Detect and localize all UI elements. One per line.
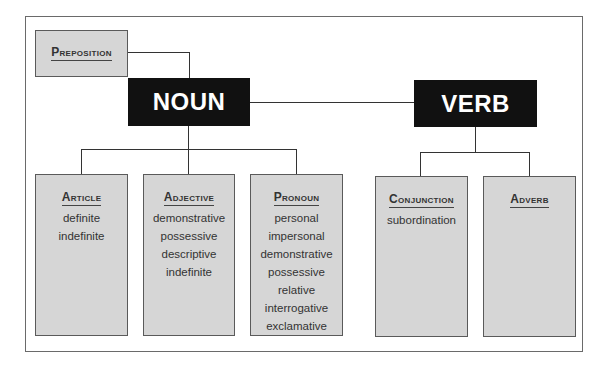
preposition-box: Preposition <box>35 30 128 77</box>
list-item: exclamative <box>251 317 342 335</box>
list-item: descriptive <box>144 245 234 263</box>
adverb-box: Adverb <box>483 176 576 337</box>
connector-noun-verb <box>250 102 414 103</box>
conjunction-box: Conjunction subordination <box>375 176 468 337</box>
list-item: subordination <box>376 211 467 229</box>
pronoun-box: Pronoun personal impersonal demonstrativ… <box>250 174 343 336</box>
list-item: interrogative <box>251 299 342 317</box>
connector-noun-down <box>188 126 189 174</box>
list-item: demonstrative <box>144 209 234 227</box>
connector-pronoun <box>296 149 297 174</box>
connector-verb-down <box>475 127 476 152</box>
connector-preposition-h <box>128 52 190 53</box>
list-item: possessive <box>251 263 342 281</box>
connector-conjunction <box>420 152 421 176</box>
connector-preposition-v <box>189 52 190 78</box>
pronoun-items: personal impersonal demonstrative posses… <box>251 209 342 335</box>
article-items: definite indefinite <box>36 209 127 245</box>
adjective-title: Adjective <box>164 191 215 206</box>
connector-noun-branch <box>81 149 297 150</box>
conjunction-items: subordination <box>376 211 467 229</box>
adjective-box: Adjective demonstrative possessive descr… <box>143 174 235 336</box>
list-item: definite <box>36 209 127 227</box>
connector-article <box>81 149 82 174</box>
verb-node: VERB <box>414 80 537 127</box>
preposition-label: Preposition <box>51 46 112 61</box>
verb-label: VERB <box>441 90 510 118</box>
list-item: indefinite <box>144 263 234 281</box>
adverb-title: Adverb <box>510 193 548 208</box>
list-item: demonstrative <box>251 245 342 263</box>
adjective-items: demonstrative possessive descriptive ind… <box>144 209 234 281</box>
list-item: indefinite <box>36 227 127 245</box>
article-box: Article definite indefinite <box>35 174 128 336</box>
connector-verb-branch <box>420 152 530 153</box>
noun-label: NOUN <box>153 88 226 116</box>
connector-adverb <box>529 152 530 176</box>
list-item: relative <box>251 281 342 299</box>
conjunction-title: Conjunction <box>389 193 454 208</box>
list-item: impersonal <box>251 227 342 245</box>
list-item: possessive <box>144 227 234 245</box>
noun-node: NOUN <box>128 78 250 126</box>
pronoun-title: Pronoun <box>274 191 320 206</box>
article-title: Article <box>62 191 102 206</box>
list-item: personal <box>251 209 342 227</box>
